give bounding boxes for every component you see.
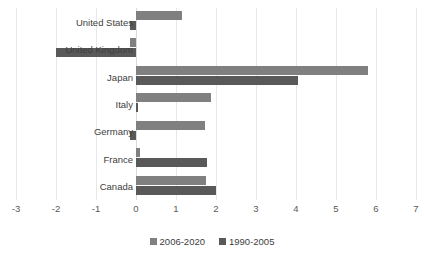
category-label: United States xyxy=(76,16,133,27)
x-tick-label: -3 xyxy=(12,203,20,214)
bar xyxy=(136,103,138,112)
legend-swatch-icon xyxy=(219,238,226,245)
bar xyxy=(136,76,298,85)
legend-item[interactable]: 1990-2005 xyxy=(219,236,274,247)
x-tick-label: 6 xyxy=(373,203,378,214)
category-label: Canada xyxy=(100,181,133,192)
x-tick-label: 1 xyxy=(173,203,178,214)
bar-group: Canada xyxy=(16,173,416,200)
legend-item[interactable]: 2006-2020 xyxy=(150,236,205,247)
plot-area: United StatesUnited KingdomJapanItalyGer… xyxy=(16,8,416,200)
gridline-7 xyxy=(416,8,417,200)
bar-group: United Kingdom xyxy=(16,35,416,62)
bar xyxy=(136,66,368,75)
x-tick-label: 0 xyxy=(133,203,138,214)
bar-group: France xyxy=(16,145,416,172)
bar xyxy=(136,11,182,20)
legend-label: 2006-2020 xyxy=(160,236,205,247)
bar-group: Germany xyxy=(16,118,416,145)
category-label: United Kingdom xyxy=(65,44,133,55)
bar xyxy=(136,186,216,195)
bar-group: United States xyxy=(16,8,416,35)
legend-swatch-icon xyxy=(150,238,157,245)
x-tick-label: 7 xyxy=(413,203,418,214)
bar xyxy=(136,176,206,185)
x-tick-label: 5 xyxy=(333,203,338,214)
category-label: Japan xyxy=(107,71,133,82)
bar-group: Japan xyxy=(16,63,416,90)
x-tick-label: -2 xyxy=(52,203,60,214)
bar-group: Italy xyxy=(16,90,416,117)
x-tick-label: 4 xyxy=(293,203,298,214)
bar xyxy=(136,121,205,130)
category-label: France xyxy=(103,153,133,164)
legend-label: 1990-2005 xyxy=(229,236,274,247)
chart-legend: 2006-20201990-2005 xyxy=(0,236,424,247)
bar xyxy=(136,93,211,102)
x-tick-label: 3 xyxy=(253,203,258,214)
x-axis: -3-2-101234567 xyxy=(16,203,416,219)
bar-chart: United StatesUnited KingdomJapanItalyGer… xyxy=(0,0,424,263)
x-tick-label: 2 xyxy=(213,203,218,214)
bar xyxy=(136,148,140,157)
category-label: Italy xyxy=(116,98,133,109)
x-tick-label: -1 xyxy=(92,203,100,214)
bar xyxy=(136,158,207,167)
category-label: Germany xyxy=(94,126,133,137)
